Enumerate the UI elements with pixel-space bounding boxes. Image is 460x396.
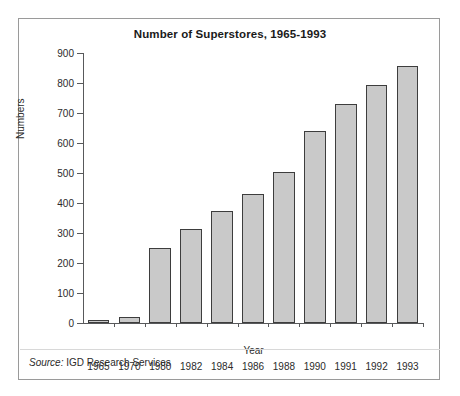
source-note: Source: IGD Research Services [29,357,171,368]
bar [242,194,264,323]
x-tick-mark [330,323,331,327]
chart-title: Number of Superstores, 1965-1993 [19,28,441,40]
y-tick-mark [77,53,83,54]
y-tick-label: 700 [57,108,74,119]
x-axis-line [83,323,424,324]
y-tick-mark [77,203,83,204]
y-tick-mark [77,173,83,174]
y-axis-title: Numbers [15,98,26,139]
x-tick-label: 1984 [211,361,233,372]
bar [211,211,233,323]
x-tick-mark [176,323,177,327]
y-tick-mark [77,293,83,294]
y-tick-mark [77,233,83,234]
x-tick-label: 1986 [242,361,264,372]
x-tick-mark [114,323,115,327]
source-value: IGD Research Services [66,357,170,368]
x-tick-mark [423,323,424,327]
x-tick-mark [299,323,300,327]
chart-figure: Number of Superstores, 1965-1993 Numbers… [18,18,440,380]
y-tick-label: 600 [57,138,74,149]
y-tick-label: 100 [57,288,74,299]
bar [304,131,326,323]
x-tick-mark [268,323,269,327]
source-label: Source: [29,357,63,368]
y-tick-mark [77,263,83,264]
x-tick-mark [207,323,208,327]
x-tick-mark [392,323,393,327]
y-tick-mark [77,113,83,114]
x-tick-mark [238,323,239,327]
x-tick-mark [361,323,362,327]
y-tick-label: 200 [57,258,74,269]
y-tick-label: 900 [57,48,74,59]
plot-area: 0100200300400500600700800900 19651970198… [83,53,423,323]
x-tick-label: 1988 [273,361,295,372]
bar [88,320,110,323]
y-tick-label: 800 [57,78,74,89]
bar [119,317,141,323]
bar [366,85,388,323]
x-tick-label: 1992 [366,361,388,372]
y-tick-label: 400 [57,198,74,209]
x-axis-title: Year [83,345,424,356]
bar [335,104,357,323]
x-tick-label: 1982 [180,361,202,372]
y-tick-mark [77,83,83,84]
x-tick-label: 1991 [335,361,357,372]
bar [149,248,171,323]
bar [273,172,295,324]
y-tick-mark [77,143,83,144]
source-divider [20,349,440,350]
y-tick-label: 0 [68,318,74,329]
bar [180,229,202,323]
y-tick-mark [77,323,83,324]
x-tick-mark [145,323,146,327]
y-tick-label: 300 [57,228,74,239]
x-tick-label: 1990 [304,361,326,372]
x-tick-label: 1993 [396,361,418,372]
y-tick-label: 500 [57,168,74,179]
bar [397,66,419,323]
